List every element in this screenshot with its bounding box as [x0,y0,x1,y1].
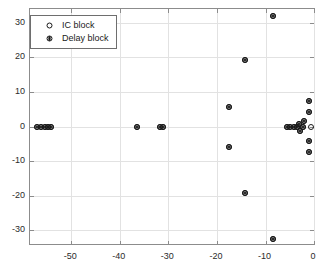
tick-y-right [310,57,314,58]
tick-y-right [310,92,314,93]
legend-entry[interactable]: Delay block [36,32,109,45]
data-point [300,118,307,125]
tick-x-top [168,9,169,13]
tick-x-top [266,9,267,13]
gridline-horizontal [30,230,314,231]
tick-x-bottom [120,241,121,245]
legend-entry[interactable]: IC block [36,19,109,32]
data-point [225,144,232,151]
gridline-vertical [314,9,315,244]
gridline-horizontal [30,57,314,58]
data-point [306,138,313,145]
data-point [306,97,313,104]
x-tick-label: -50 [64,251,77,261]
tick-y-left [30,196,34,197]
y-tick-label: 0 [20,121,25,131]
tick-y-right [310,196,314,197]
circle-open-icon [36,22,62,29]
gridline-horizontal [30,196,314,197]
y-tick-label: 10 [15,86,25,96]
x-tick-label: -40 [112,251,125,261]
data-point [225,103,232,110]
x-tick-label: -10 [258,251,271,261]
legend-label: IC block [62,20,95,31]
data-point [300,118,307,125]
tick-x-top [71,9,72,13]
circle-asterisk-icon [36,35,62,42]
y-tick-label: -10 [12,155,25,165]
data-point [306,109,313,116]
legend[interactable]: IC blockDelay block [30,15,117,49]
tick-y-right [310,230,314,231]
gridline-horizontal [30,92,314,93]
tick-y-left [30,127,34,128]
y-tick-label: 20 [15,51,25,61]
tick-x-bottom [168,241,169,245]
data-point [306,149,313,156]
tick-x-bottom [314,241,315,245]
data-point [296,127,303,134]
legend-label: Delay block [62,33,109,44]
tick-y-left [30,57,34,58]
tick-x-top [120,9,121,13]
x-tick-label: -30 [161,251,174,261]
tick-x-bottom [266,241,267,245]
data-point [306,138,313,145]
tick-x-top [217,9,218,13]
tick-x-bottom [217,241,218,245]
y-tick-label: -30 [12,224,25,234]
data-point [225,144,232,151]
data-point [306,109,313,116]
data-point [306,149,313,156]
data-point [270,235,277,242]
tick-y-left [30,230,34,231]
x-tick-label: 0 [311,251,316,261]
tick-y-left [30,92,34,93]
gridline-horizontal [30,127,314,128]
tick-y-left [30,161,34,162]
x-tick-label: -20 [209,251,222,261]
tick-x-bottom [71,241,72,245]
gridline-horizontal [30,161,314,162]
data-point [270,12,277,19]
tick-x-top [314,9,315,13]
data-point [270,12,277,19]
data-point [296,127,303,134]
y-tick-label: -20 [12,190,25,200]
tick-y-right [310,23,314,24]
data-point [270,235,277,242]
y-tick-label: 30 [15,17,25,27]
figure: -50-40-30-20-100 3020100-10-20-30 IC blo… [0,0,325,269]
tick-y-right [310,127,314,128]
data-point [306,97,313,104]
tick-y-right [310,161,314,162]
data-point [225,103,232,110]
